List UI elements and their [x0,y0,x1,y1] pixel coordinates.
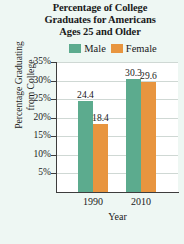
y-tick-label: 10% [21,150,51,160]
x-axis-line [56,192,179,193]
y-tick-mark [51,136,56,137]
gridline [56,62,178,63]
y-tick-mark [51,155,56,156]
legend-entry-female: Female [111,43,157,54]
gridline [56,136,178,137]
bar-value-2010-female: 29.6 [134,71,163,81]
plot-area [56,62,178,192]
y-axis-line [56,62,57,193]
legend-swatch-male-icon [69,44,81,53]
legend-label-male: Male [84,43,106,54]
bar-1990-female [93,124,108,192]
gridline [56,118,178,119]
bar-value-1990-male: 24.4 [71,90,100,100]
legend-entry-male: Male [69,43,106,54]
y-tick-mark [51,118,56,119]
y-tick-mark [51,173,56,174]
x-axis-title: Year [56,211,179,222]
y-tick-label: 5% [21,168,51,178]
bar-2010-female [141,82,156,192]
legend-label-female: Female [126,43,157,54]
y-axis-title-line-1: Percentage Graduating [13,23,25,147]
bar-2010-male [126,79,141,192]
bar-value-1990-female: 18.4 [86,113,115,123]
y-axis-title: Percentage Graduating from College [13,23,39,147]
chart-legend: Male Female [44,41,182,55]
legend-swatch-female-icon [111,44,123,53]
y-tick-mark [51,62,56,63]
x-axis-category-2010: 2010 [116,196,166,207]
gridline [56,173,178,174]
y-axis-title-line-2: from College [25,23,37,147]
bar-chart-figure: Percentage of College Graduates for Amer… [0,0,184,244]
gridline [56,155,178,156]
x-axis-category-1990: 1990 [68,196,118,207]
y-tick-mark [51,81,56,82]
y-tick-mark [51,99,56,100]
